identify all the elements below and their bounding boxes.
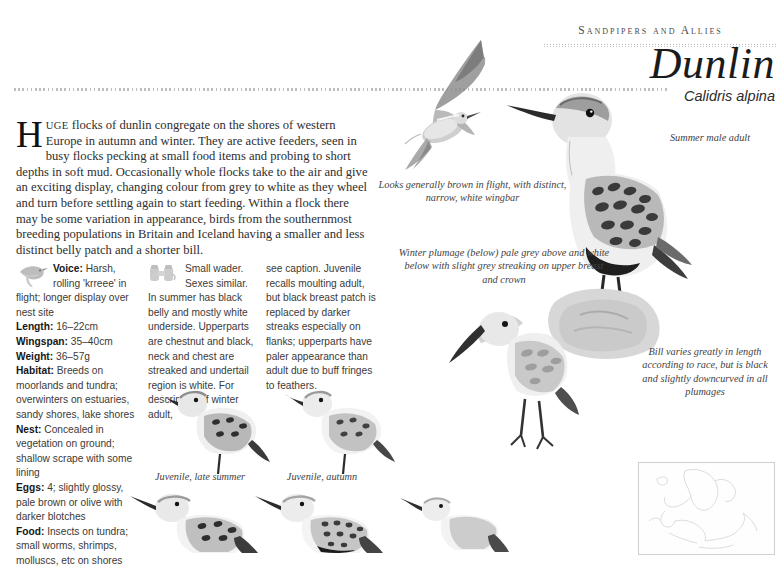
fact-nest: Nest: Concealed in vegetation on ground;…	[16, 423, 140, 481]
fact-eggs: Eggs: 4; slightly glossy, pale brown or …	[16, 481, 140, 525]
fact-value-weight: 36–57g	[53, 351, 90, 362]
illustration-winter-adult-small	[400, 492, 510, 553]
fact-food: Food: Insects on tundra; small worms, sh…	[16, 525, 140, 568]
distribution-map	[638, 462, 775, 555]
illustration-moulting-adult-left	[130, 490, 260, 553]
facts-column: Voice: Harsh, rolling 'krreee' in flight…	[16, 262, 140, 568]
running-head: Sandpipers and Allies	[528, 24, 773, 36]
fact-label-weight: Weight:	[16, 351, 53, 362]
fact-label-eggs: Eggs:	[16, 482, 44, 493]
fact-wingspan: Wingspan: 35–40cm	[16, 335, 140, 350]
fact-label-habitat: Habitat:	[16, 365, 54, 376]
caption-flight: Looks generally brown in flight, with di…	[370, 178, 575, 205]
illustration-moulting-adult-right	[255, 490, 385, 553]
fact-label-wingspan: Wingspan:	[16, 336, 68, 347]
fact-weight: Weight: 36–57g	[16, 350, 140, 365]
fact-label-food: Food:	[16, 526, 44, 537]
illustration-juvenile-late-summer	[160, 382, 272, 474]
caption-juvenile-autumn: Juvenile, autumn	[268, 470, 376, 483]
caption-bill: Bill varies greatly in length according …	[634, 345, 776, 399]
fact-label-nest: Nest:	[16, 424, 41, 435]
caption-juvenile-late-summer: Juvenile, late summer	[140, 470, 260, 483]
drop-cap: H	[16, 118, 46, 150]
description-column-two: see caption. Juvenile recalls moulting a…	[266, 262, 378, 393]
caption-summer-male-adult: Summer male adult	[652, 131, 768, 144]
caption-winter-plumage: Winter plumage (below) pale grey above a…	[396, 246, 612, 286]
fact-length: Length: 16–22cm	[16, 320, 140, 335]
illustration-winter-plumage-adult	[405, 295, 580, 480]
fact-value-length: 16–22cm	[53, 321, 98, 332]
intro-smallcaps: UGE	[46, 120, 69, 131]
intro-body: flocks of dunlin congregate on the shore…	[16, 118, 368, 257]
fact-label-length: Length:	[16, 321, 53, 332]
description-text-two: see caption. Juvenile recalls moulting a…	[266, 262, 378, 393]
fact-label-voice: Voice:	[53, 263, 83, 274]
bird-silhouette-icon	[16, 263, 50, 289]
fact-value-wingspan: 35–40cm	[68, 336, 113, 347]
binoculars-icon	[148, 263, 182, 289]
intro-paragraph: HUGE flocks of dunlin congregate on the …	[16, 118, 368, 258]
illustration-juvenile-autumn	[285, 382, 397, 474]
fact-habitat: Habitat: Breeds on moorlands and tundra;…	[16, 364, 140, 422]
